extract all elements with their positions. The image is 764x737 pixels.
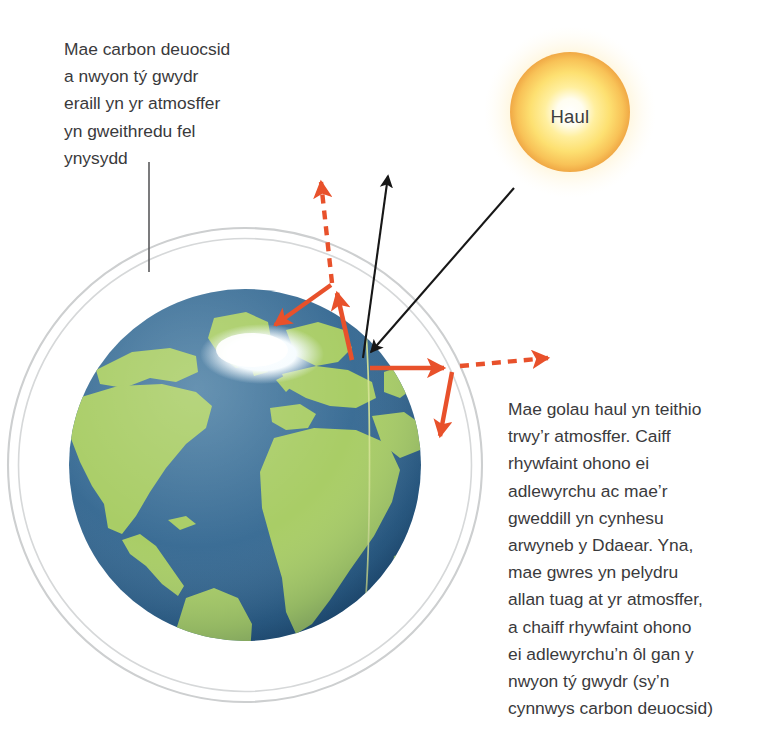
escaping-heat-ray-up bbox=[321, 182, 332, 283]
caption-left: Mae carbon deuocsid a nwyon tý gwydr era… bbox=[64, 36, 324, 172]
caption-right: Mae golau haul yn teithio trwy’r atmosff… bbox=[508, 396, 764, 722]
sun-label: Haul bbox=[470, 106, 670, 128]
reflected-heat-ray-down-right bbox=[440, 372, 452, 436]
escaping-heat-ray-right bbox=[460, 358, 548, 366]
incoming-solar-ray bbox=[371, 188, 514, 352]
diagram-canvas: Haul Mae carbon deuocsid a nwyon tý gwyd… bbox=[0, 0, 764, 737]
